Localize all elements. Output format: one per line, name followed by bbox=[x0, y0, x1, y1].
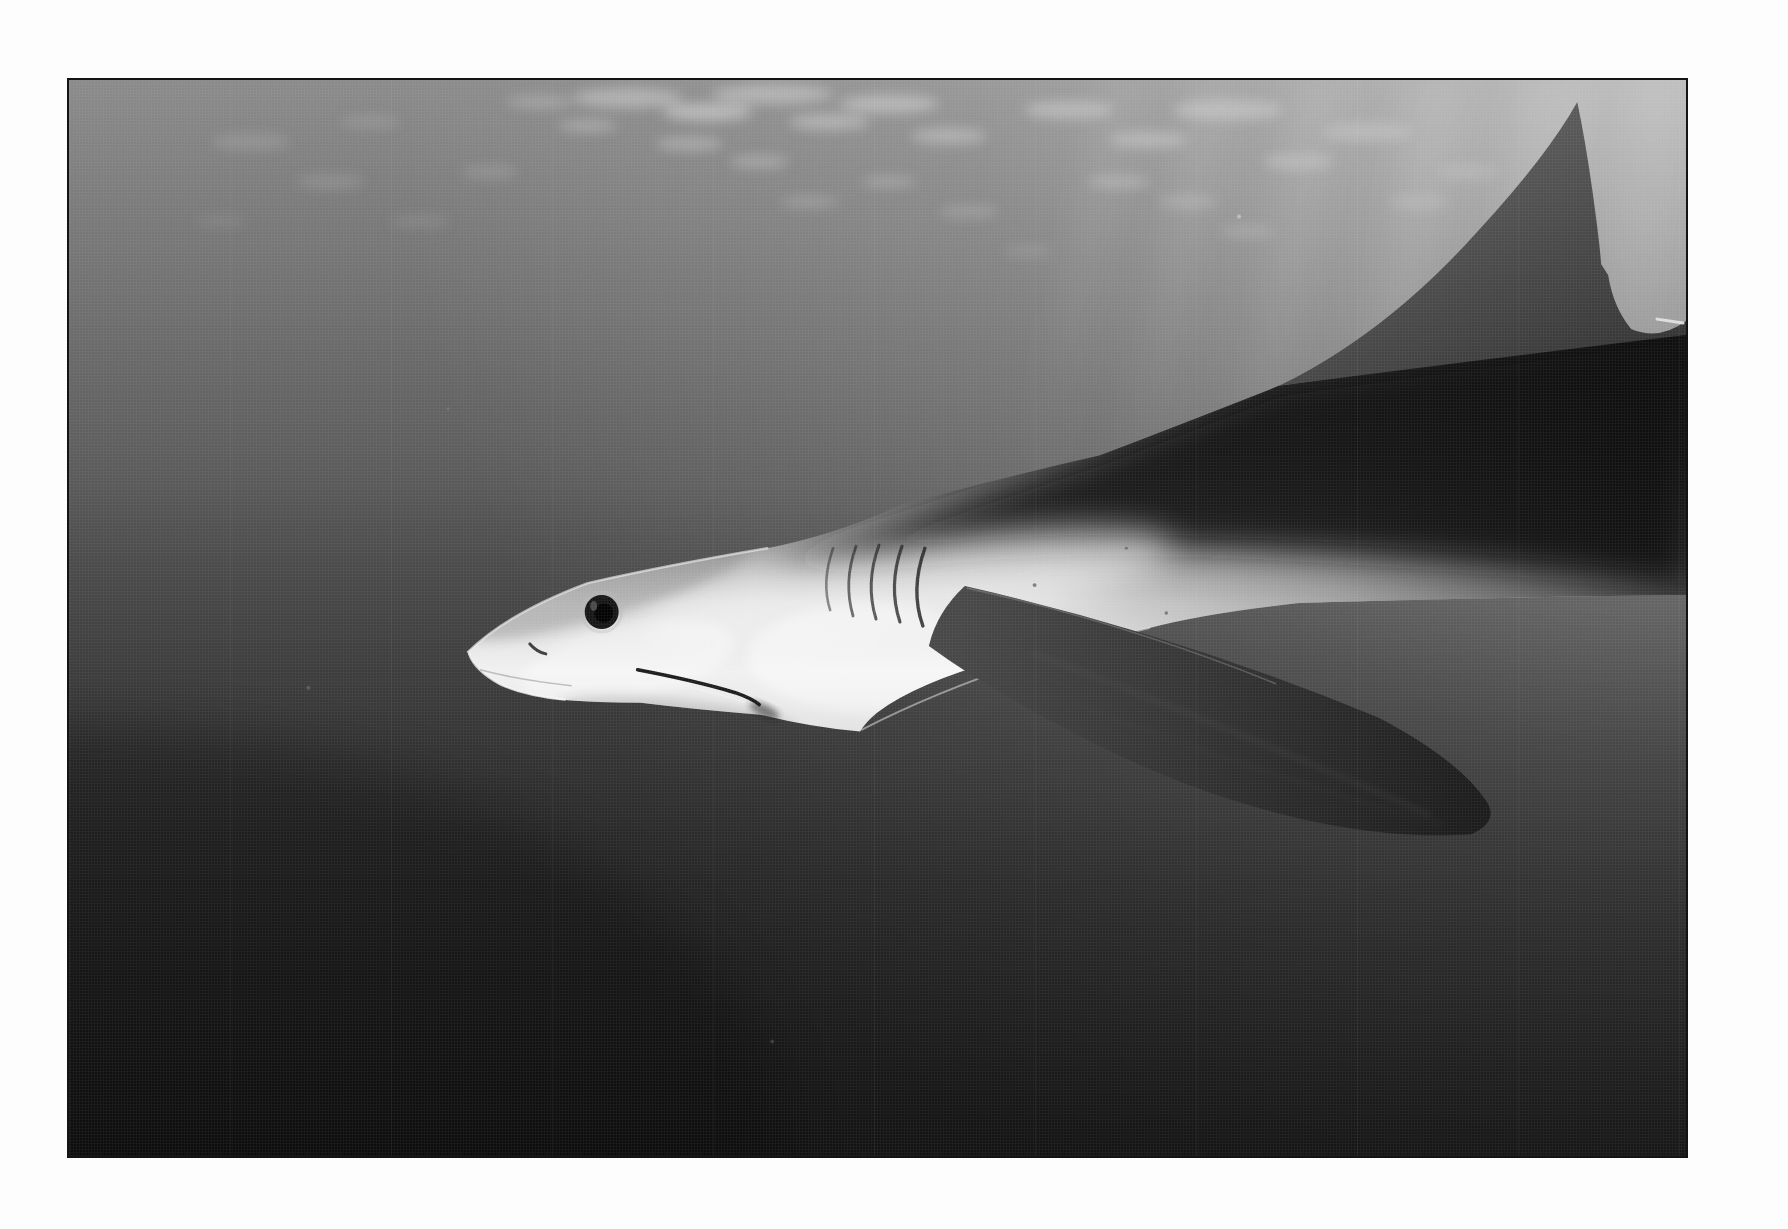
shark-photograph bbox=[69, 80, 1686, 1156]
eye bbox=[582, 592, 622, 632]
skin-speck bbox=[1164, 611, 1168, 615]
photo-plate bbox=[67, 78, 1688, 1158]
eye-glint bbox=[590, 601, 597, 611]
book-page bbox=[0, 0, 1788, 1229]
skin-speck bbox=[1125, 547, 1128, 550]
skin-speck bbox=[1033, 583, 1037, 587]
